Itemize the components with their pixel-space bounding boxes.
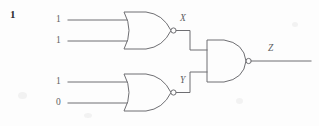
circuit-diagram-page: 1 1 1 1 0 X Y Z xyxy=(0,0,319,126)
nor-gate-2 xyxy=(124,74,176,111)
node-label-y: Y xyxy=(180,76,185,86)
nor-gate-2-bubble xyxy=(171,90,176,95)
nor-gate-2-body xyxy=(124,74,171,111)
input-label-2: 1 xyxy=(56,36,61,46)
input-label-1: 1 xyxy=(56,15,61,25)
circuit-schematic xyxy=(0,0,319,126)
nor-gate-1-bubble xyxy=(171,28,176,33)
nand-gate-1-bubble xyxy=(246,58,251,63)
node-label-x: X xyxy=(180,14,186,24)
nand-gate-1-body xyxy=(207,40,246,82)
nor-gate-1 xyxy=(124,12,176,49)
wire-net-x xyxy=(176,31,207,51)
input-label-3: 1 xyxy=(56,77,61,87)
nand-gate-1 xyxy=(207,40,251,82)
node-label-z: Z xyxy=(268,44,273,54)
input-label-4: 0 xyxy=(56,98,61,108)
nor-gate-1-body xyxy=(124,12,171,49)
